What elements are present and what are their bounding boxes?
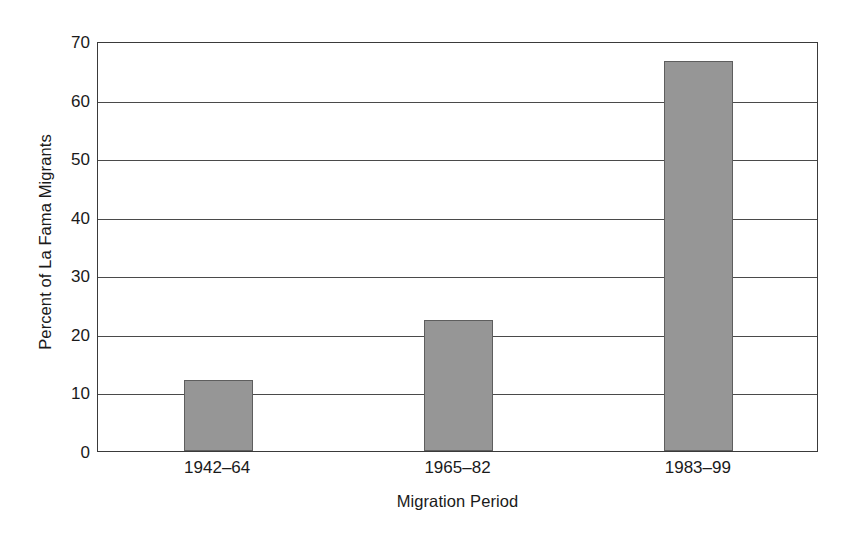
y-tick-label: 50 bbox=[48, 151, 90, 168]
y-tick-label: 40 bbox=[48, 209, 90, 226]
x-axis-tick-labels: 1942–641965–821983–99 bbox=[97, 458, 818, 486]
y-axis-tick-labels: 010203040506070 bbox=[48, 0, 90, 536]
x-tick-label: 1942–64 bbox=[184, 458, 250, 478]
bar bbox=[184, 380, 253, 451]
bar-series bbox=[98, 43, 817, 451]
bar bbox=[664, 61, 733, 451]
y-tick-label: 60 bbox=[48, 92, 90, 109]
y-tick-label: 0 bbox=[48, 444, 90, 461]
y-tick-label: 20 bbox=[48, 326, 90, 343]
x-axis-title: Migration Period bbox=[97, 492, 818, 511]
y-tick-label: 70 bbox=[48, 34, 90, 51]
x-tick-label: 1965–82 bbox=[424, 458, 490, 478]
bar bbox=[424, 320, 493, 451]
x-tick-label: 1983–99 bbox=[665, 458, 731, 478]
y-tick-label: 10 bbox=[48, 385, 90, 402]
y-tick-label: 30 bbox=[48, 268, 90, 285]
bar-chart-figure: Percent of La Fama Migrants 010203040506… bbox=[0, 0, 845, 536]
plot-area bbox=[97, 42, 818, 452]
